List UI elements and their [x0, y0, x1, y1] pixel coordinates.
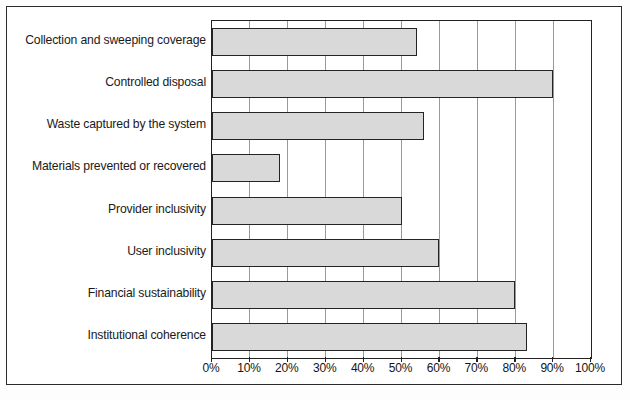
- bar-5[interactable]: [212, 197, 402, 225]
- bar-chart: Collection and sweeping coverageControll…: [0, 0, 630, 400]
- category-label-5: Provider inclusivity: [14, 202, 206, 216]
- bar-4[interactable]: [212, 154, 280, 182]
- category-axis-labels: Collection and sweeping coverageControll…: [14, 20, 206, 357]
- plot-inner: [212, 21, 591, 358]
- x-tick-label-9: 80%: [502, 361, 525, 375]
- x-tick-label-6: 50%: [389, 361, 412, 375]
- x-tick-label-1: 0%: [203, 361, 220, 375]
- bar-3[interactable]: [212, 112, 424, 140]
- bar-row: [212, 70, 591, 98]
- bar-row: [212, 28, 591, 56]
- x-tick-label-11: 100%: [575, 361, 605, 375]
- category-label-6: User inclusivity: [14, 244, 206, 258]
- category-label-2: Controlled disposal: [14, 75, 206, 89]
- x-tick-label-5: 40%: [351, 361, 374, 375]
- x-axis-tick-labels: 0%10%20%30%40%50%60%70%80%90%100%: [211, 361, 591, 381]
- bar-1[interactable]: [212, 28, 417, 56]
- bar-2[interactable]: [212, 70, 553, 98]
- bar-row: [212, 281, 591, 309]
- category-label-7: Financial sustainability: [14, 286, 206, 300]
- bar-row: [212, 112, 591, 140]
- x-tick-label-8: 70%: [465, 361, 488, 375]
- category-label-4: Materials prevented or recovered: [14, 159, 206, 173]
- x-tick-label-10: 90%: [540, 361, 563, 375]
- x-tick-label-3: 20%: [275, 361, 298, 375]
- category-label-8: Institutional coherence: [14, 328, 206, 342]
- bar-row: [212, 323, 591, 351]
- category-label-3: Waste captured by the system: [14, 117, 206, 131]
- bar-row: [212, 154, 591, 182]
- bar-6[interactable]: [212, 239, 439, 267]
- plot-area: [211, 20, 592, 359]
- figure-root: Collection and sweeping coverageControll…: [0, 0, 630, 400]
- category-label-1: Collection and sweeping coverage: [14, 33, 206, 47]
- bar-7[interactable]: [212, 281, 515, 309]
- bar-row: [212, 197, 591, 225]
- x-tick-label-4: 30%: [313, 361, 336, 375]
- bar-row: [212, 239, 591, 267]
- bar-8[interactable]: [212, 323, 527, 351]
- x-tick-label-2: 10%: [237, 361, 260, 375]
- x-tick-label-7: 60%: [427, 361, 450, 375]
